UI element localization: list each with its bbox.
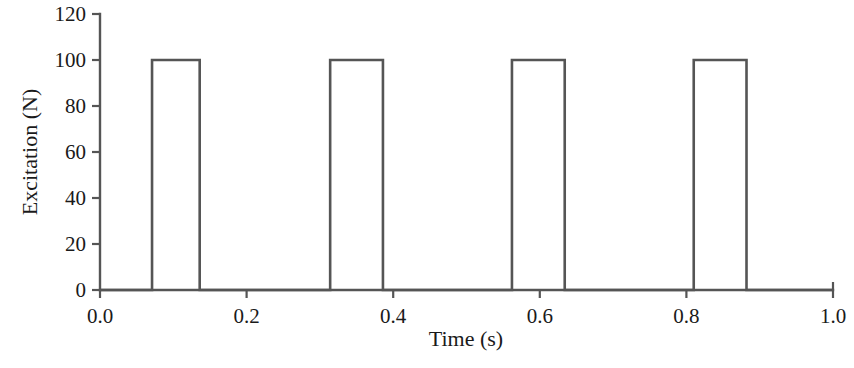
y-axis-tick-label: 0 [30,280,86,301]
x-axis-tick-label: 0.2 [233,306,259,327]
x-axis-title: Time (s) [429,326,503,352]
plot-area [0,0,854,368]
x-axis-tick-label: 0.6 [527,306,553,327]
excitation-signal-path [100,60,833,290]
y-axis-title: Excitation (N) [17,89,43,215]
x-axis-tick-label: 0.0 [87,306,113,327]
x-axis-tick-label: 1.0 [820,306,846,327]
caption-sliver [6,356,326,367]
y-axis-tick-label: 100 [30,50,86,71]
y-axis-tick-label: 120 [30,4,86,25]
y-axis-tick-label: 20 [30,234,86,255]
x-axis-tick-label: 0.4 [380,306,406,327]
y-axis-title-wrapper: Excitation (N) [30,0,31,368]
excitation-time-chart: 020406080100120 0.00.20.40.60.81.0 Excit… [0,0,854,368]
x-axis-tick-label: 0.8 [673,306,699,327]
